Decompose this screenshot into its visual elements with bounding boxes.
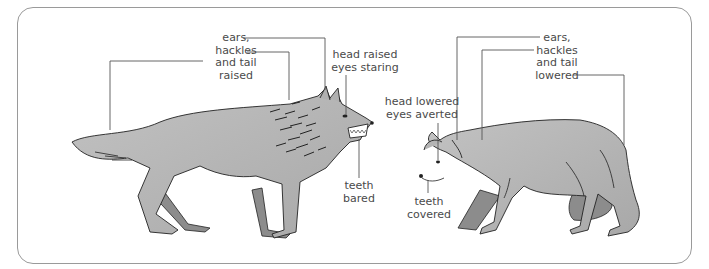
label-line: raised <box>200 70 272 83</box>
label-line: head lowered <box>378 96 466 109</box>
label-line: and tail <box>532 57 582 70</box>
label-teeth-covered: teeth covered <box>404 196 454 221</box>
label-ears-hackles-tail-lowered: ears, hackles and tail lowered <box>532 32 582 82</box>
label-ears-hackles-tail-raised: ears, hackles and tail raised <box>200 32 272 82</box>
dominant-wolf <box>72 86 374 238</box>
label-line: lowered <box>532 70 582 83</box>
label-line: head raised <box>325 49 405 62</box>
label-head-raised-eyes-staring: head raised eyes staring <box>325 49 405 74</box>
label-line: covered <box>404 209 454 222</box>
label-line: eyes staring <box>325 62 405 75</box>
wolves-illustration <box>0 0 709 269</box>
label-line: teeth <box>404 196 454 209</box>
label-line: and tail <box>200 57 272 70</box>
label-line: eyes averted <box>378 109 466 122</box>
label-line: ears, <box>200 32 272 45</box>
label-line: teeth <box>336 180 382 193</box>
label-teeth-bared: teeth bared <box>336 180 382 205</box>
label-head-lowered-eyes-averted: head lowered eyes averted <box>378 96 466 121</box>
label-line: bared <box>336 193 382 206</box>
label-line: ears, <box>532 32 582 45</box>
